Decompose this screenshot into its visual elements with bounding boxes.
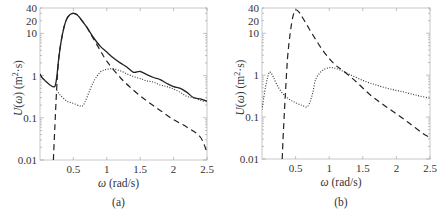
- panel-label: (b): [334, 196, 348, 209]
- x-tick-label: 2.5: [423, 162, 437, 174]
- y-tick-label: 40: [248, 2, 260, 14]
- x-tick-label: 1: [326, 162, 332, 174]
- x-tick-label: 1: [104, 163, 110, 175]
- y-axis-label: U(ω) (m2·s): [233, 59, 248, 115]
- y-tick-label: 0.1: [245, 111, 259, 123]
- y-tick-label: 20: [26, 15, 38, 27]
- x-tick-label: 1.5: [133, 163, 147, 175]
- series-solid: [40, 13, 207, 101]
- series-dashed: [282, 10, 430, 159]
- y-tick-label: 0.01: [240, 153, 259, 165]
- x-tick-label: 0.5: [289, 162, 303, 174]
- x-tick-label: 2: [171, 163, 177, 175]
- x-tick-label: 1.5: [356, 162, 370, 174]
- x-tick-label: 2.5: [200, 163, 214, 175]
- x-tick-label: 0.5: [67, 163, 81, 175]
- y-tick-label: 40: [26, 2, 38, 14]
- plot-frame: [40, 8, 207, 160]
- x-tick-label: 2: [394, 162, 400, 174]
- x-axis-label: ω (rad/s): [320, 176, 361, 189]
- y-axis-label: U(ω) (m2·s): [11, 60, 26, 116]
- panel-a: 0.511.522.50.010.11102040ω (rad/s)U(ω) (…: [11, 2, 215, 209]
- y-tick-label: 10: [248, 27, 260, 39]
- y-tick-label: 1: [254, 69, 260, 81]
- series-dashed: [53, 13, 207, 160]
- y-tick-label: 0.01: [18, 154, 37, 166]
- y-tick-label: 0.1: [23, 112, 37, 124]
- figure: 0.511.522.50.010.11102040ω (rad/s)U(ω) (…: [0, 0, 437, 216]
- y-tick-label: 1: [32, 70, 38, 82]
- x-axis-label: ω (rad/s): [98, 177, 139, 190]
- y-tick-label: 10: [26, 27, 38, 39]
- plot-frame: [262, 8, 430, 159]
- series-dotted: [57, 69, 207, 106]
- panel-b: 0.511.522.50.010.11102040ω (rad/s)U(ω) (…: [233, 2, 437, 209]
- panel-label: (a): [112, 196, 125, 209]
- y-tick-label: 20: [248, 15, 260, 27]
